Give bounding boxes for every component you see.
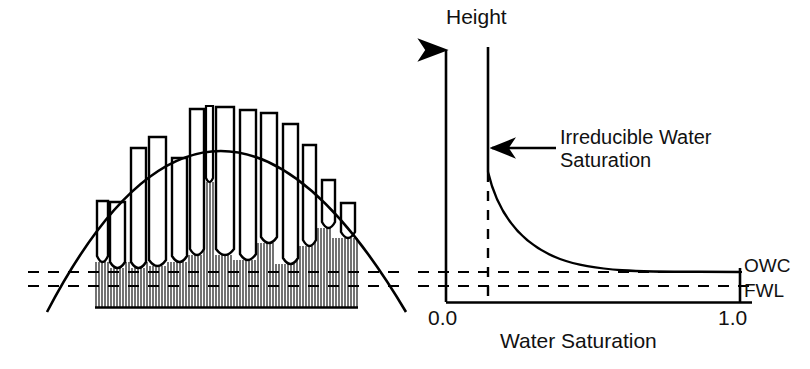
x-tick-label-low: 0.0 <box>428 307 457 328</box>
figure-canvas: Height Irreducible Water Saturation OWC … <box>0 0 810 369</box>
saturation-height-curve <box>488 172 740 272</box>
fwl-label: FWL <box>744 281 784 300</box>
annotation-line-1: Irreducible Water <box>560 126 712 149</box>
x-axis-label: Water Saturation <box>500 330 657 351</box>
x-tick-label-high: 1.0 <box>718 307 747 328</box>
y-axis-label: Height <box>446 6 507 27</box>
saturation-height-plot-group <box>418 47 752 303</box>
annotation-line-2: Saturation <box>560 149 712 172</box>
capillary-bundle-group <box>28 106 406 312</box>
irreducible-saturation-annotation: Irreducible Water Saturation <box>560 126 712 172</box>
owc-label: OWC <box>744 256 790 275</box>
figure-svg <box>0 0 810 369</box>
